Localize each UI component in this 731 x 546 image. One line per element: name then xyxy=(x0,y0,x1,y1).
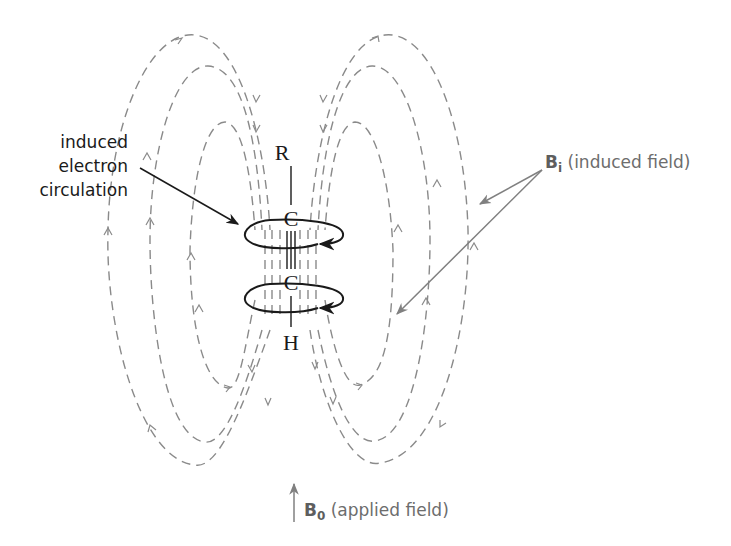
right-middle-field-loop xyxy=(318,66,430,441)
left-outer-field-loop xyxy=(108,35,270,465)
right-field-lines xyxy=(310,35,468,464)
right-outer-field-loop xyxy=(310,35,468,464)
induced-field-text: Bi (induced field) xyxy=(545,152,691,175)
left-field-lines xyxy=(108,35,270,465)
left-middle-field-loop xyxy=(150,66,262,442)
circulation-pointer-arrow xyxy=(140,168,238,224)
electron-circulation-rings xyxy=(245,220,343,313)
right-inner-field-loop xyxy=(325,122,393,385)
induced-field-label: Bi (induced field) xyxy=(397,152,691,314)
applied-field-text: B0 (applied field) xyxy=(304,500,449,523)
atom-h: H xyxy=(283,330,299,355)
label-line-1: induced xyxy=(60,132,128,152)
induced-field-pointer-2 xyxy=(397,170,542,314)
left-inner-field-loop xyxy=(190,122,255,388)
label-line-2: electron xyxy=(59,156,128,176)
atom-r: R xyxy=(275,140,290,165)
applied-field-label: B0 (applied field) xyxy=(294,484,449,523)
label-line-3: circulation xyxy=(39,180,128,200)
diagram-canvas: R C C H induced electron circulation Bi … xyxy=(0,0,731,546)
electron-circulation-label: induced electron circulation xyxy=(39,132,238,224)
induced-field-pointer-1 xyxy=(480,170,542,204)
